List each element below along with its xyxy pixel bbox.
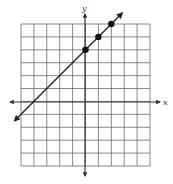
y-axis-label: y <box>81 4 87 13</box>
data-point <box>95 34 101 40</box>
x-axis-label: x <box>163 98 168 107</box>
linear-function-line <box>15 13 123 121</box>
data-point <box>108 21 114 27</box>
data-point <box>82 47 88 53</box>
coordinate-plane: y x <box>0 0 173 184</box>
